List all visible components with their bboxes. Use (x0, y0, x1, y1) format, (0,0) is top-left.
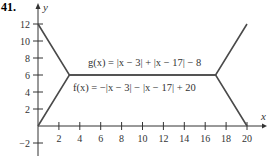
x-tick-label: 4 (77, 133, 82, 144)
x-tick-label: 8 (119, 133, 124, 144)
series-lines (38, 24, 247, 126)
y-tick-label: 4 (25, 87, 30, 98)
g-equation-label: g(x) = |x − 3| + |x − 17| − 8 (88, 57, 201, 69)
y-tick-label: 2 (25, 104, 30, 115)
x-tick-label: 16 (200, 133, 210, 144)
x-tick-label: 6 (98, 133, 103, 144)
f-equation-label: f(x) = −|x − 3| − |x − 17| + 20 (73, 82, 196, 94)
x-axis-label: x (260, 110, 266, 122)
x-axis-arrow-icon (262, 124, 267, 129)
y-tick-label: 8 (25, 53, 30, 64)
y-axis-label: y (42, 1, 48, 13)
x-tick-label: 12 (158, 133, 168, 144)
x-tick-label: 14 (179, 133, 189, 144)
axes: 2468101214161820−224681012 (19, 3, 267, 156)
y-tick-label: 10 (20, 36, 30, 47)
x-tick-label: 18 (221, 133, 231, 144)
labels: xyg(x) = |x − 3| + |x − 17| − 8f(x) = −|… (42, 1, 266, 122)
x-tick-label: 2 (56, 133, 61, 144)
y-tick-label: −2 (19, 138, 30, 149)
y-tick-label: 12 (20, 19, 30, 30)
x-tick-label: 20 (242, 133, 252, 144)
chart: 2468101214161820−224681012 xyg(x) = |x −… (0, 0, 268, 161)
y-axis-arrow-icon (36, 3, 41, 9)
y-tick-label: 6 (25, 70, 30, 81)
x-tick-label: 10 (138, 133, 148, 144)
